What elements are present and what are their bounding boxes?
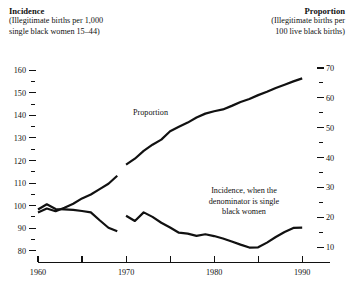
right-tick-label: 40 (326, 154, 334, 163)
left-tick-label: 110 (14, 179, 26, 188)
left-tick-label: 160 (14, 66, 26, 75)
left-axis-tick-labels: 8090100110120130140150160 (14, 66, 26, 255)
proportion-series-label: Proportion (133, 108, 168, 117)
right-tick-label: 50 (326, 124, 334, 133)
incidence-series-label-line1: Incidence, when the (211, 186, 277, 195)
left-tick-label: 80 (18, 247, 26, 256)
left-tick-label: 150 (14, 89, 26, 98)
chart-plot-area: 8090100110120130140150160 10203040506070… (0, 0, 353, 288)
left-tick-label: 120 (14, 157, 26, 166)
series-line-incidence (126, 212, 302, 247)
left-tick-label: 100 (14, 202, 26, 211)
left-axis-ticks (29, 70, 36, 250)
left-tick-label: 140 (14, 111, 26, 120)
incidence-series-label-line2: denominator is single (209, 197, 280, 206)
right-tick-label: 20 (326, 213, 334, 222)
chart-figure: Incidence (Illegitimate births per 1,000… (0, 0, 353, 288)
x-axis (38, 256, 330, 262)
right-axis-ticks (317, 68, 324, 247)
right-tick-label: 60 (326, 94, 334, 103)
series-line-proportion (126, 78, 302, 164)
right-tick-label: 70 (326, 64, 334, 73)
left-tick-label: 90 (18, 224, 26, 233)
series-lines (38, 78, 302, 247)
x-tick-label: 1960 (30, 268, 46, 277)
series-line-incidence (38, 204, 117, 231)
left-tick-label: 130 (14, 134, 26, 143)
x-tick-label: 1990 (294, 268, 310, 277)
x-tick-label: 1970 (118, 268, 134, 277)
incidence-series-label-line3: black women (222, 207, 266, 216)
right-axis-tick-labels: 10203040506070 (326, 64, 334, 252)
x-axis-tick-labels: 1960197019801990 (30, 268, 311, 277)
right-tick-label: 10 (326, 243, 334, 252)
x-tick-label: 1980 (206, 268, 222, 277)
right-tick-label: 30 (326, 183, 334, 192)
